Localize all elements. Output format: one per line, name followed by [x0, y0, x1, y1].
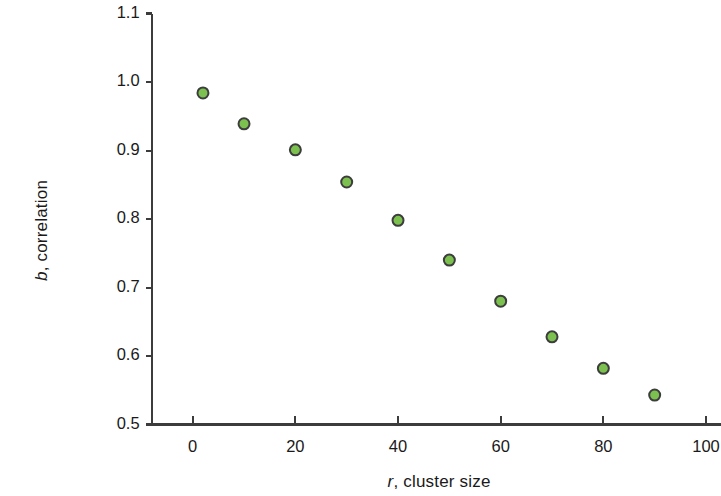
x-axis-title: r, cluster size: [359, 472, 519, 492]
y-tick-label: 1.0: [96, 71, 140, 90]
data-point: [444, 255, 455, 266]
data-point: [547, 331, 558, 342]
data-point: [598, 363, 609, 374]
axes: [146, 14, 721, 425]
x-tick-label: 60: [481, 437, 521, 456]
y-tick-label: 0.7: [96, 277, 140, 296]
y-tick-label: 0.5: [96, 414, 140, 433]
y-tick-label: 0.9: [96, 140, 140, 159]
axis-ticks: [146, 82, 706, 425]
data-point: [393, 215, 404, 226]
scatter-chart-figure: 020406080100 0.50.60.70.80.91.01.1 r, cl…: [0, 0, 721, 496]
data-point: [649, 390, 660, 401]
x-tick-label: 20: [275, 437, 315, 456]
y-tick-label: 0.6: [96, 345, 140, 364]
data-point: [197, 87, 208, 98]
data-point: [341, 177, 352, 188]
y-tick-label: 1.1: [96, 3, 140, 22]
data-point: [239, 118, 250, 129]
x-axis-label-rest: , cluster size: [393, 472, 490, 491]
y-axis-symbol: b: [32, 271, 51, 281]
data-points: [197, 87, 660, 400]
x-tick-label: 100: [686, 437, 721, 456]
x-tick-label: 0: [173, 437, 213, 456]
y-axis-title: b, correlation: [32, 180, 52, 281]
data-point: [495, 296, 506, 307]
x-tick-label: 80: [583, 437, 623, 456]
y-axis-label-rest: , correlation: [32, 180, 51, 271]
y-tick-label: 0.8: [96, 208, 140, 227]
data-point: [290, 144, 301, 155]
x-tick-label: 40: [378, 437, 418, 456]
